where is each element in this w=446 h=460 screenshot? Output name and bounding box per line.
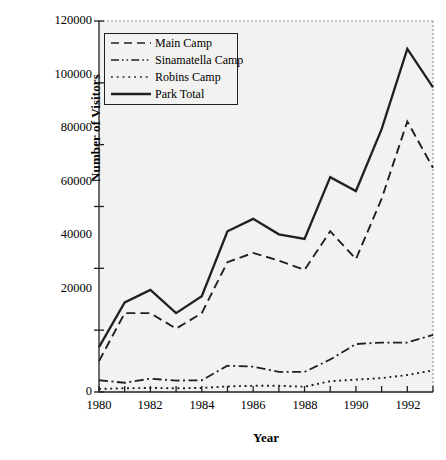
legend-label: Sinamatella Camp [154,54,243,66]
legend-label: Park Total [154,88,204,100]
legend-swatch-dash-dot [108,54,154,66]
line-chart-figure: Number of Visitors Year 120000 100000 80… [0,0,446,460]
legend-item-main-camp: Main Camp [105,34,237,51]
series-line-main-camp [99,121,433,361]
legend-item-park-total: Park Total [105,85,237,102]
legend-label: Main Camp [154,37,212,49]
legend-item-sinamatella-camp: Sinamatella Camp [105,51,237,68]
series-line-sinamatella-camp [99,335,433,383]
legend-swatch-solid [108,88,154,100]
legend-item-robins-camp: Robins Camp [105,68,237,85]
legend-swatch-dotted [108,71,154,83]
legend-label: Robins Camp [154,71,221,83]
legend-swatch-dashed [108,37,154,49]
chart-legend: Main Camp Sinamatella Camp Robins Camp P… [104,33,238,105]
